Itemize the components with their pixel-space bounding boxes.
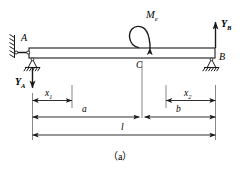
label-reaction-yb: YB <box>221 19 232 32</box>
label-moment-subscript: e <box>155 15 158 22</box>
label-reaction-ya: YA <box>15 77 26 90</box>
label-point-c: C <box>136 61 142 71</box>
beam-diagram-svg <box>0 0 247 173</box>
label-point-a: A <box>21 33 27 43</box>
label-x2-subscript: 2 <box>188 93 191 100</box>
beam-member <box>29 48 215 58</box>
dimension-extension-lines <box>33 62 216 140</box>
support-pin-right <box>203 58 219 71</box>
label-dimension-l: l <box>121 123 124 133</box>
label-dimension-x1: x1 <box>45 89 52 100</box>
beam-diagram-figure: A B C Me YA YB x1 x2 a b l （a） <box>0 0 247 173</box>
label-dimension-x2: x2 <box>184 89 191 100</box>
label-x1-subscript: 1 <box>49 93 52 100</box>
label-ya-subscript: A <box>21 82 25 89</box>
label-dimension-a: a <box>82 105 87 115</box>
label-yb-subscript: B <box>227 24 231 31</box>
figure-caption: （a） <box>108 152 132 162</box>
applied-moment-arrow <box>130 26 150 48</box>
label-point-b: B <box>219 52 225 62</box>
label-dimension-b: b <box>176 105 181 115</box>
label-applied-moment: Me <box>146 10 158 23</box>
